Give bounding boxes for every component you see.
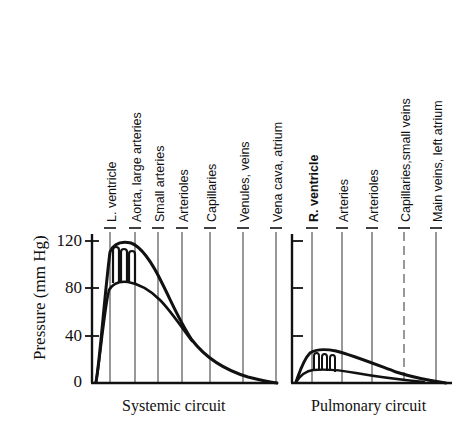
category-label-aorta: Aorta, large arteries [131,112,144,222]
pulmonary-pulse-1 [314,353,319,370]
y-tick-label-40: 40 [36,326,82,346]
systemic-pulse-oscillations [113,247,135,283]
category-label-l-ventricle: L. ventricle [106,162,119,222]
category-label-venules: Venules, veins [239,141,252,222]
y-tick-label-80: 80 [36,278,82,298]
y-tick-label-0: 0 [36,372,82,392]
y-tick-label-120: 120 [36,231,82,251]
pressure-chart-figure: Pressure (mm Hg) 120 80 40 0 L. ventricl… [0,0,470,440]
systemic-circuit-caption: Systemic circuit [122,397,226,415]
pulmonary-circuit-caption: Pulmonary circuit [311,397,426,415]
category-label-vena-cava: Vena cava, atrium [272,122,285,222]
category-label-pulm-main-veins: Main veins, left atrium [432,100,445,222]
systemic-systolic-curve [96,242,277,383]
category-label-small-arteries: Small arteries [154,146,167,222]
category-label-arterioles: Arterioles [178,169,191,222]
systemic-pulse-3 [129,251,135,283]
category-label-pulm-capillaries: Capillaries,small veins [400,98,413,222]
category-label-capillaries: Capillaries [206,164,219,222]
category-label-pulm-arterioles: Arterioles [368,169,381,222]
category-label-r-ventricle: R. ventricle [308,155,321,222]
systemic-pulse-1 [113,247,119,283]
systemic-pulse-2 [121,249,127,283]
category-label-pulm-arteries: Arteries [338,179,351,222]
